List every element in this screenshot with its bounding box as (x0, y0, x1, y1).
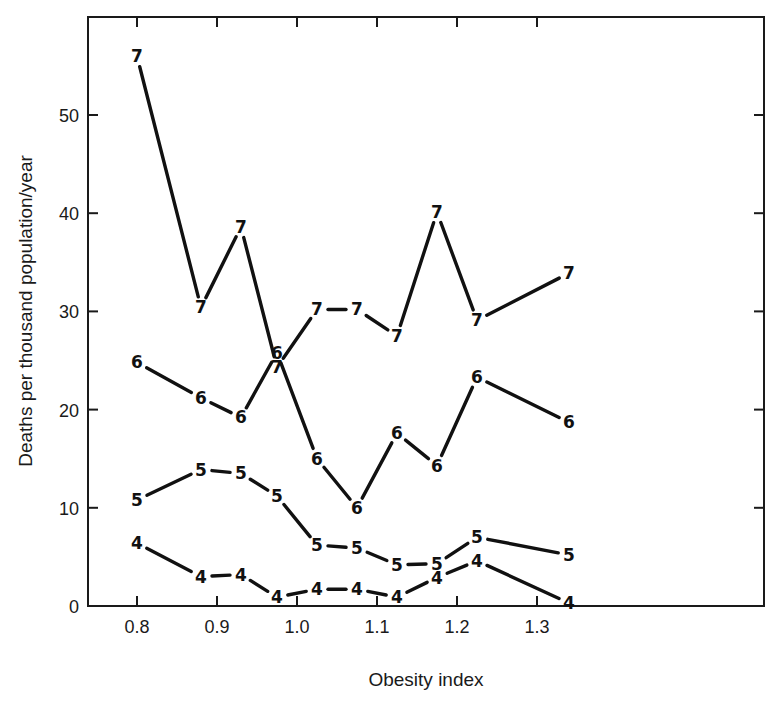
series-segment (246, 362, 271, 408)
y-tick-label: 40 (59, 204, 79, 224)
data-point-marker: 6 (235, 407, 247, 427)
data-point-marker: 4 (311, 579, 323, 599)
series-segment (147, 474, 191, 495)
data-point-marker: 4 (235, 565, 247, 585)
y-tick-label: 30 (59, 302, 79, 322)
data-point-marker: 5 (391, 555, 403, 575)
data-point-marker: 6 (271, 343, 283, 363)
data-point-marker: 4 (563, 593, 575, 613)
series-segment (147, 548, 191, 571)
data-point-marker: 5 (271, 486, 283, 506)
data-point-marker: 4 (471, 551, 483, 571)
y-axis-title: Deaths per thousand population/year (15, 155, 36, 467)
data-point-marker: 7 (131, 46, 143, 66)
data-point-marker: 5 (235, 463, 247, 483)
series-segment (400, 223, 433, 326)
x-tick-label: 0.9 (204, 617, 229, 637)
series-segment (366, 316, 388, 330)
x-tick-label: 1.2 (444, 617, 469, 637)
series-segment (212, 575, 230, 576)
data-point-marker: 6 (391, 423, 403, 443)
series-segment (281, 363, 313, 448)
y-tick-label: 0 (69, 597, 79, 617)
y-tick-label: 50 (59, 106, 79, 126)
series-segment (447, 565, 467, 573)
data-point-marker: 6 (563, 412, 575, 432)
series-group: 7777777777666666666655555555554444444444 (131, 46, 575, 613)
data-point-marker: 4 (271, 587, 283, 607)
series-segment (244, 238, 275, 357)
series-segment (140, 67, 199, 297)
x-tick-label: 1.3 (524, 617, 549, 637)
series-segment (212, 471, 230, 473)
data-point-marker: 4 (431, 568, 443, 588)
data-point-marker: 5 (471, 527, 483, 547)
series-segment (488, 539, 558, 553)
series-segment (283, 318, 311, 358)
series-segment (206, 237, 236, 298)
data-point-marker: 4 (131, 533, 143, 553)
series-segment (446, 543, 468, 557)
series-segment (487, 278, 559, 315)
data-point-marker: 6 (471, 367, 483, 387)
series-segment (487, 565, 559, 598)
data-point-marker: 7 (351, 299, 363, 319)
data-point-marker: 7 (311, 299, 323, 319)
series-segment (362, 443, 392, 498)
data-point-marker: 4 (391, 587, 403, 607)
series-6: 6666666666 (131, 343, 575, 518)
data-point-marker: 7 (431, 202, 443, 222)
series-segment (288, 591, 306, 595)
plot-frame (88, 17, 764, 606)
data-point-marker: 6 (311, 449, 323, 469)
series-segment (406, 440, 429, 459)
data-point-marker: 6 (351, 498, 363, 518)
x-tick-label: 0.8 (124, 617, 149, 637)
x-axis: 0.80.91.01.11.21.3 (124, 17, 549, 637)
series-segment (487, 382, 559, 417)
data-point-marker: 5 (195, 460, 207, 480)
x-axis-title: Obesity index (368, 669, 484, 690)
data-point-marker: 6 (131, 352, 143, 372)
x-tick-label: 1.1 (364, 617, 389, 637)
line-chart: 01020304050 0.80.91.01.11.21.3 777777777… (0, 0, 779, 708)
series-segment (368, 591, 386, 595)
data-point-marker: 6 (195, 388, 207, 408)
series-segment (441, 223, 473, 310)
series-segment (250, 580, 267, 591)
data-point-marker: 6 (431, 456, 443, 476)
series-segment (328, 546, 346, 547)
data-point-marker: 7 (195, 297, 207, 317)
data-point-marker: 5 (311, 535, 323, 555)
data-point-marker: 7 (235, 217, 247, 237)
x-tick-label: 1.0 (284, 617, 309, 637)
data-point-marker: 4 (351, 579, 363, 599)
series-segment (324, 467, 350, 499)
series-segment (367, 552, 387, 560)
data-point-marker: 5 (563, 545, 575, 565)
y-tick-label: 10 (59, 499, 79, 519)
y-axis: 01020304050 (59, 106, 764, 617)
data-point-marker: 7 (471, 310, 483, 330)
y-tick-label: 20 (59, 401, 79, 421)
data-point-marker: 7 (391, 326, 403, 346)
data-point-marker: 7 (563, 263, 575, 283)
series-segment (284, 505, 310, 537)
data-point-marker: 5 (131, 490, 143, 510)
data-point-marker: 4 (195, 567, 207, 587)
series-segment (442, 387, 473, 455)
series-7: 7777777777 (131, 46, 575, 377)
series-segment (407, 582, 427, 592)
data-point-marker: 5 (351, 538, 363, 558)
series-segment (250, 479, 267, 490)
series-segment (147, 368, 192, 393)
series-segment (211, 403, 231, 413)
